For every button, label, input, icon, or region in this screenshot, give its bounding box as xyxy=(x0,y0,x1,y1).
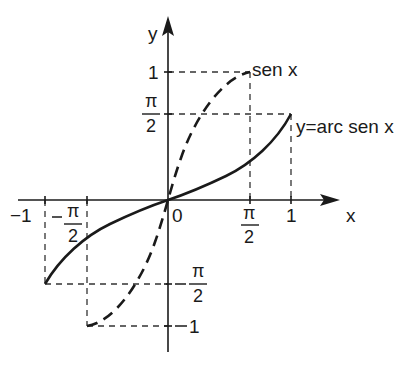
y-tick-minus-pi-over-2: π 2 xyxy=(175,261,207,306)
arcsine-curve-label: y=arc sen x xyxy=(296,116,394,137)
svg-text:π: π xyxy=(192,261,204,281)
svg-text:2: 2 xyxy=(244,227,254,247)
x-tick-1: 1 xyxy=(286,205,297,226)
y-tick-minus-1: 1 xyxy=(175,316,200,337)
origin-label: 0 xyxy=(172,205,183,226)
x-axis-label: x xyxy=(346,205,356,226)
svg-text:2: 2 xyxy=(68,226,78,246)
y-tick-1: 1 xyxy=(148,62,159,83)
svg-text:π: π xyxy=(67,201,79,221)
svg-text:2: 2 xyxy=(193,286,203,306)
svg-text:π: π xyxy=(145,91,157,111)
arcsine-diagram: y x 0 sen x y=arc sen x 1 π 2 π 2 1 −1 π… xyxy=(0,0,414,366)
x-tick-pi-over-2: π 2 xyxy=(241,203,259,247)
sine-curve-label: sen x xyxy=(252,59,298,80)
y-axis-label: y xyxy=(148,23,158,44)
x-tick-minus-pi-over-2: π 2 xyxy=(52,201,82,246)
svg-text:2: 2 xyxy=(146,116,156,136)
x-tick-minus-1: −1 xyxy=(10,205,32,226)
svg-text:π: π xyxy=(243,203,255,223)
svg-text:1: 1 xyxy=(189,316,200,337)
y-tick-pi-over-2: π 2 xyxy=(142,91,160,136)
